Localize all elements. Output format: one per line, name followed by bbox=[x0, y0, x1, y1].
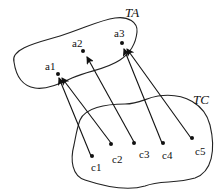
label-a3: a3 bbox=[114, 27, 125, 39]
point-c2 bbox=[109, 142, 113, 146]
point-c3 bbox=[132, 141, 136, 145]
label-c2: c2 bbox=[112, 153, 122, 165]
point-c4 bbox=[161, 141, 165, 145]
point-c1 bbox=[90, 154, 94, 158]
label-c4: c4 bbox=[162, 149, 173, 161]
label-c5: c5 bbox=[195, 145, 206, 157]
set-label-ta: TA bbox=[125, 5, 139, 20]
point-a3 bbox=[120, 41, 124, 45]
arrow-c5-a3 bbox=[127, 49, 191, 138]
point-a1 bbox=[56, 72, 60, 76]
set-label-tc: TC bbox=[193, 92, 209, 107]
arrow-c3-a2 bbox=[87, 57, 134, 142]
mapping-diagram: TA TC a1 a2 a3 c1 c2 c3 c4 c5 bbox=[0, 0, 223, 194]
label-c3: c3 bbox=[139, 148, 150, 160]
mapping-arrows bbox=[59, 49, 191, 156]
arrow-c1-a1 bbox=[59, 78, 91, 156]
point-c5 bbox=[190, 136, 194, 140]
label-a2: a2 bbox=[72, 37, 82, 49]
set-tc-outline bbox=[72, 95, 212, 188]
label-c1: c1 bbox=[91, 161, 101, 173]
point-a2 bbox=[81, 49, 85, 53]
label-a1: a1 bbox=[45, 60, 55, 72]
